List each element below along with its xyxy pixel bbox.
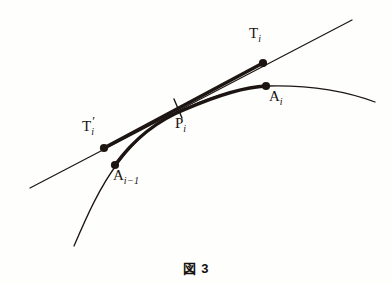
geometry-diagram bbox=[0, 0, 392, 285]
label-curve-point-next-subscript: i bbox=[280, 96, 283, 107]
smooth-curve bbox=[74, 86, 375, 246]
label-tangent-point-prev-base: T bbox=[82, 118, 91, 134]
label-curve-point-prev-base: A bbox=[113, 167, 124, 183]
label-tangent-point-prev: Ti′ bbox=[82, 114, 95, 137]
label-curve-point-prev-subscript: i−1 bbox=[124, 175, 139, 186]
tangent-line bbox=[30, 20, 352, 188]
figure-caption: 図 3 bbox=[0, 258, 392, 277]
label-tangent-point-next-subscript: i bbox=[258, 33, 261, 44]
tangent-point-next-marker bbox=[259, 59, 267, 67]
label-tangent-point-next-base: T bbox=[249, 25, 258, 41]
chord-thick-segment bbox=[104, 63, 263, 148]
label-contact-point-subscript: i bbox=[183, 123, 186, 134]
label-curve-point-next-base: A bbox=[269, 88, 280, 104]
tangent-point-prev-marker bbox=[100, 144, 108, 152]
label-tangent-point-prev-prime: ′ bbox=[92, 113, 95, 128]
label-curve-point-next: Ai bbox=[269, 89, 283, 107]
label-contact-point: Pi bbox=[175, 116, 186, 134]
label-tangent-point-next: Ti bbox=[249, 26, 261, 44]
label-curve-point-prev: Ai−1 bbox=[113, 168, 139, 186]
curve-thick-overlay bbox=[115, 86, 266, 165]
figure-container: Ti′ Ai−1 Pi Ti Ai 図 3 bbox=[0, 0, 392, 285]
